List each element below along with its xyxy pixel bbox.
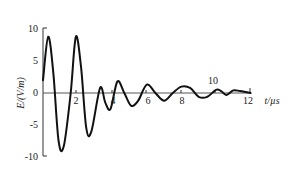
y-tick-label: 5: [33, 55, 38, 66]
chart: 10 5 0 -5 -10 2 4 6 8 10 12 t/µs E/(V/m): [0, 0, 291, 171]
waveform-line: [43, 36, 251, 151]
y-tick-label: 0: [33, 87, 38, 98]
x-tick-label: 12: [243, 95, 253, 106]
x-tick-label: 2: [74, 95, 79, 106]
y-axis-label: E/(V/m): [15, 77, 27, 110]
x-axis-label: t/µs: [264, 95, 279, 106]
y-tick-label: -5: [30, 119, 38, 130]
x-tick-label: 6: [146, 95, 151, 106]
x-tick-label: 8: [180, 95, 185, 106]
y-tick-label: 10: [28, 23, 38, 34]
x-tick-label: 10: [208, 75, 218, 86]
y-tick-label: -10: [25, 151, 38, 162]
